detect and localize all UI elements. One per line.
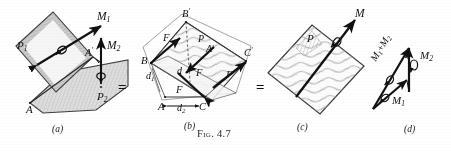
panel-b-force-f-label-4: F xyxy=(226,70,232,81)
equals-sign-1: = xyxy=(118,79,127,96)
panel-b-point-a-label: A xyxy=(158,102,164,113)
panel-b-artwork xyxy=(143,14,251,106)
panel-a-point-a-prime-label: A′ xyxy=(85,47,93,59)
panel-a-plane-p1-label: P1 xyxy=(17,40,27,52)
figure-4-7: P1 P2 M1 M2 A A′ (a) = B B′ C′ A′ P F F … xyxy=(0,0,451,151)
panel-b-distance-d2-label: d2 xyxy=(177,103,185,114)
panel-c-plane-p-label: P xyxy=(307,33,314,44)
panel-d-caption: (d) xyxy=(404,124,415,134)
panel-a-plane-p2-label: P2 xyxy=(97,91,107,103)
panel-a-caption: (a) xyxy=(52,124,63,134)
panel-b-force-f-label-2: F xyxy=(196,68,202,79)
panel-b-force-f-label-3: F xyxy=(176,85,182,96)
panel-b-distance-d-label: d xyxy=(177,66,182,76)
panel-a-moment-m1-label: M1 xyxy=(97,11,111,24)
figure-caption: Fig. 4.7 xyxy=(197,128,231,139)
panel-b-plane-p-label: P xyxy=(198,34,204,44)
panel-a-artwork xyxy=(16,12,128,113)
equals-sign-2: = xyxy=(256,79,265,96)
panel-b-point-b-prime-label: B′ xyxy=(182,8,190,20)
panel-b-point-c-prime-label: C′ xyxy=(244,47,253,59)
panel-b-distance-d1-label: d1 xyxy=(146,71,154,82)
panel-c-artwork xyxy=(268,20,364,114)
panel-b-force-f-label-1: F xyxy=(163,33,169,44)
panel-a-point-a-label: A xyxy=(26,104,33,115)
panel-a-moment-m2-label: M2 xyxy=(107,40,121,53)
panel-d-vector-m2-label: M2 xyxy=(420,50,433,62)
panel-d-vector-m1-label: M1 xyxy=(392,95,405,107)
panel-b-point-b-label: B xyxy=(141,56,147,67)
panel-c-caption: (c) xyxy=(297,122,308,132)
panel-b-point-c-label: C xyxy=(199,102,206,113)
panel-c-resultant-moment-m-label: M xyxy=(355,8,365,20)
panel-b-point-a-prime-label: A′ xyxy=(206,44,214,54)
panel-b-caption: (b) xyxy=(184,121,195,131)
